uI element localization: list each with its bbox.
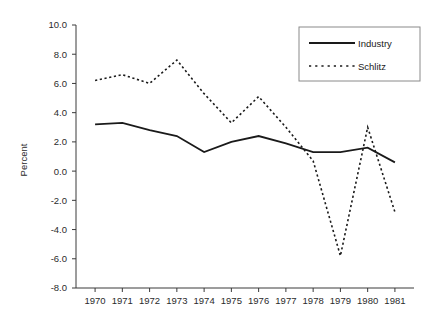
x-tick-label: 1981 xyxy=(384,295,405,306)
y-tick-label: -8.0 xyxy=(51,282,67,293)
y-tick-label: -2.0 xyxy=(51,195,67,206)
x-tick-label: 1975 xyxy=(221,295,242,306)
x-tick-label: 1980 xyxy=(357,295,378,306)
x-tick-label: 1978 xyxy=(303,295,324,306)
y-tick-label: -6.0 xyxy=(51,253,67,264)
legend-label-industry: Industry xyxy=(358,38,392,49)
y-tick-label: 6.0 xyxy=(54,78,67,89)
x-tick-label: 1972 xyxy=(139,295,160,306)
x-tick-label: 1979 xyxy=(330,295,351,306)
x-tick-label: 1976 xyxy=(248,295,269,306)
y-tick-label: 8.0 xyxy=(54,49,67,60)
chart-canvas: 10.08.06.04.02.00.0-2.0-4.0-6.0-8.0 1970… xyxy=(0,0,428,323)
x-tick-label: 1977 xyxy=(275,295,296,306)
x-tick-label: 1973 xyxy=(166,295,187,306)
y-tick-label: 4.0 xyxy=(54,107,67,118)
x-tick-label: 1971 xyxy=(112,295,133,306)
x-tick-label: 1970 xyxy=(85,295,106,306)
y-tick-label: 2.0 xyxy=(54,136,67,147)
legend: Industry Schlitz xyxy=(299,27,420,81)
y-tick-label: 0.0 xyxy=(54,166,67,177)
y-tick-label: -4.0 xyxy=(51,224,67,235)
x-tick-label: 1974 xyxy=(194,295,215,306)
y-axis-title: Percent xyxy=(18,143,29,176)
legend-box xyxy=(299,27,420,81)
legend-label-schlitz: Schlitz xyxy=(358,61,386,72)
y-tick-label: 10.0 xyxy=(49,19,68,30)
line-chart: 10.08.06.04.02.00.0-2.0-4.0-6.0-8.0 1970… xyxy=(0,0,428,323)
